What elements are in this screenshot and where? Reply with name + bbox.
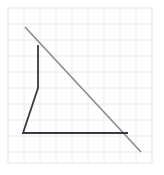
figure-canvas xyxy=(0,0,164,175)
geometry-figure-svg xyxy=(0,0,164,175)
